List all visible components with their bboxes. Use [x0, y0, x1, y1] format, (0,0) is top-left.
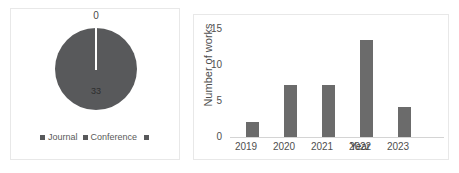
bar-chart-panel: Number of works 15 10 5 0 2019 2020 2021… — [193, 14, 449, 160]
y-axis-tick-label-15: 15 — [200, 24, 222, 34]
x-axis-tick-label-2020: 2020 — [264, 141, 304, 152]
legend-label-journal: Journal — [48, 132, 78, 142]
bar-2020 — [284, 85, 297, 137]
legend-swatch-icon-journal — [40, 135, 45, 140]
legend-item-extra — [142, 135, 152, 140]
legend-label-conference: Conference — [91, 132, 138, 142]
bar-2019 — [246, 122, 259, 137]
y-axis-tick-label-0: 0 — [200, 132, 222, 142]
y-axis-tick-label-5: 5 — [200, 96, 222, 106]
x-axis-title: Year — [340, 141, 380, 152]
pie-chart-plot-area: 0 33 Journal Conference — [11, 9, 181, 161]
bar-2023 — [398, 107, 411, 137]
bar-2021 — [322, 85, 335, 137]
x-axis-tick-label-2019: 2019 — [226, 141, 266, 152]
legend-item-journal: Journal — [40, 132, 78, 142]
pie-data-label-conference: 33 — [55, 86, 137, 97]
pie-slice-journal — [95, 28, 97, 70]
pie-data-label-journal: 0 — [55, 10, 137, 22]
pie-chart-panel: 0 33 Journal Conference — [10, 8, 180, 160]
bars-container — [230, 25, 444, 137]
legend-swatch-icon-extra — [144, 135, 149, 140]
legend-swatch-icon-conference — [83, 135, 88, 140]
pie-graphic: 0 33 — [55, 28, 137, 110]
bar-2022 — [360, 40, 373, 137]
bar-chart-plot-area: Number of works 15 10 5 0 2019 2020 2021… — [194, 15, 450, 161]
x-axis-line — [230, 137, 444, 138]
y-axis-tick-label-10: 10 — [200, 60, 222, 70]
pie-legend: Journal Conference — [11, 132, 181, 142]
x-axis-tick-label-2021: 2021 — [302, 141, 342, 152]
x-axis-tick-label-2023: 2023 — [378, 141, 418, 152]
legend-item-conference: Conference — [83, 132, 138, 142]
